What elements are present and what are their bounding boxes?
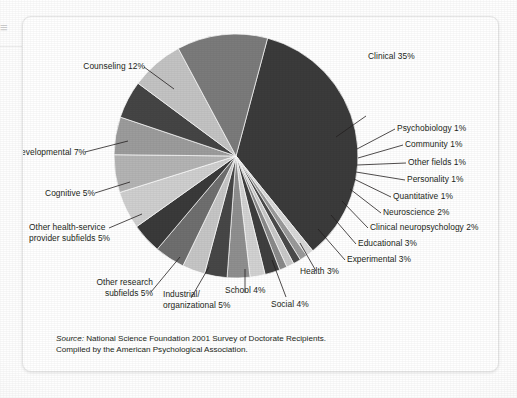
leader-other-fields: [357, 163, 406, 165]
page-margin-rule: [0, 46, 22, 47]
label-quantitative: Quantitative 1%: [393, 191, 453, 202]
label-industrial-line1: Industrial/: [163, 289, 200, 299]
label-social: Social 4%: [271, 299, 309, 310]
label-health: Health 3%: [300, 266, 339, 277]
leader-psychobiology: [357, 129, 395, 149]
label-other-hsp-line1: Other health-service: [29, 222, 105, 232]
label-personality: Personality 1%: [407, 174, 464, 185]
label-industrial-organizational: Industrial/ organizational 5%: [163, 289, 243, 310]
label-counseling: Counseling 12%: [53, 61, 145, 72]
label-cognitive: Cognitive 5%: [31, 188, 95, 199]
label-educational: Educational 3%: [358, 238, 417, 249]
leader-educational: [331, 215, 356, 244]
source-label: Source:: [56, 334, 84, 343]
label-developmental: Developmental 7%: [22, 147, 85, 158]
label-neuroscience: Neuroscience 2%: [383, 207, 449, 218]
label-other-research-subfields: Other research subfields 5%: [69, 277, 153, 298]
label-other-research-line2: subfields 5%: [105, 288, 153, 298]
pie-slices: [114, 34, 358, 278]
leader-neuroscience: [350, 189, 381, 213]
leader-quantitative: [354, 179, 391, 197]
figure-card: Clinical 35% Psychobiology 1% Community …: [22, 16, 499, 372]
leader-other-research: [151, 257, 180, 292]
source-caption: Source: National Science Foundation 2001…: [56, 333, 456, 355]
label-experimental: Experimental 3%: [347, 254, 411, 265]
page-margin-artifact: ≡: [0, 22, 9, 56]
leader-community: [358, 145, 403, 158]
label-clinical-neuropsychology: Clinical neuropsychology 2%: [370, 222, 478, 233]
leader-experimental: [318, 229, 345, 260]
source-line-2: Compiled by the American Psychological A…: [56, 345, 248, 354]
label-industrial-line2: organizational 5%: [163, 300, 230, 310]
label-community: Community 1%: [405, 139, 462, 150]
label-other-fields: Other fields 1%: [408, 157, 466, 168]
pie-chart: Clinical 35% Psychobiology 1% Community …: [23, 17, 498, 371]
label-other-research-line1: Other research: [96, 277, 153, 287]
label-psychobiology: Psychobiology 1%: [397, 123, 466, 134]
leader-clinical-neuro: [342, 201, 368, 228]
label-other-hsp-line2: provider subfields 5%: [29, 233, 110, 243]
label-other-health-service-provider-subfields: Other health-service provider subfields …: [29, 222, 115, 243]
figure-stage: ≡: [0, 0, 517, 398]
leader-personality: [356, 172, 405, 180]
label-clinical: Clinical 35%: [368, 51, 415, 62]
source-line-1: National Science Foundation 2001 Survey …: [84, 334, 326, 343]
